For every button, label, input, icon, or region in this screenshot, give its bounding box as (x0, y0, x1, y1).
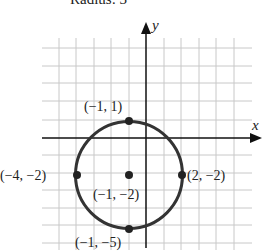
x-axis-label: x (251, 117, 259, 133)
label-left: (−4, −2) (0, 168, 46, 184)
coordinate-plane: x y (−1, 1) (−4, −2) (−1, −2) (2, −2) (−… (0, 0, 274, 251)
point-right (178, 171, 186, 179)
y-axis-label: y (150, 17, 159, 33)
grid-lines (42, 38, 252, 250)
point-left (73, 171, 81, 179)
label-center: (−1, −2) (93, 187, 139, 203)
label-right: (2, −2) (187, 168, 226, 184)
point-bottom (125, 225, 133, 233)
label-bottom: (−1, −5) (75, 235, 121, 251)
label-top: (−1, 1) (84, 99, 123, 115)
x-axis-arrow-icon (250, 133, 262, 143)
labeled-points: (−1, 1) (−4, −2) (−1, −2) (2, −2) (−1, −… (0, 99, 226, 251)
axes: x y (42, 17, 262, 248)
point-top (125, 117, 133, 125)
y-axis-arrow-icon (141, 22, 151, 34)
point-center (125, 171, 133, 179)
